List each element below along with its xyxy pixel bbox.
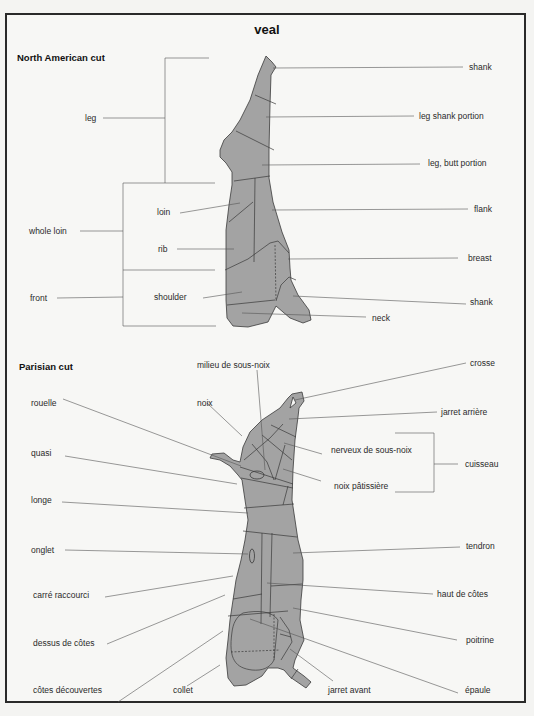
label-jarret-arriere: jarret arrière [441, 407, 487, 417]
label-jarret-avant: jarret avant [328, 685, 371, 695]
label-leg-shank-portion: leg shank portion [419, 111, 484, 121]
label-crosse: crosse [470, 358, 495, 368]
label-loin: loin [157, 207, 170, 217]
label-cotes-decouvertes: côtes découvertes [33, 685, 102, 695]
label-poitrine: poitrine [466, 635, 494, 645]
label-noix: noix [197, 398, 213, 408]
label-leg-butt-portion: leg, butt portion [428, 158, 487, 168]
label-shoulder: shoulder [154, 292, 187, 302]
label-breast: breast [468, 253, 492, 263]
label-shank-top: shank [469, 62, 492, 72]
label-rib: rib [158, 244, 167, 254]
label-shank-bottom: shank [470, 297, 493, 307]
label-dessus-de-cotes: dessus de côtes [33, 638, 94, 648]
label-rouelle: rouelle [31, 398, 57, 408]
north-american-heading: North American cut [17, 52, 105, 63]
label-front: front [30, 293, 47, 303]
label-quasi: quasi [31, 448, 51, 458]
label-epaule: épaule [465, 685, 491, 695]
label-flank: flank [474, 204, 492, 214]
label-longe: longe [31, 495, 52, 505]
parisian-heading: Parisian cut [19, 361, 73, 372]
parisian-carcass [210, 392, 311, 688]
label-onglet: onglet [31, 545, 54, 555]
label-carre-raccourci: carré raccourci [33, 590, 89, 600]
label-cuisseau: cuisseau [465, 459, 499, 469]
north-american-carcass [220, 56, 311, 327]
label-noix-patissiere: noix pâtissière [334, 481, 388, 491]
label-milieu-de-sous-noix: milieu de sous-noix [197, 360, 270, 370]
label-collet: collet [173, 685, 193, 695]
label-leg: leg [85, 113, 96, 123]
label-whole-loin: whole loin [29, 226, 67, 236]
label-haut-de-cotes: haut de côtes [437, 589, 488, 599]
label-tendron: tendron [466, 541, 495, 551]
label-neck: neck [372, 313, 390, 323]
label-nerveux-de-sous-noix: nerveux de sous-noix [331, 445, 412, 455]
veal-cuts-drawing [0, 0, 534, 716]
